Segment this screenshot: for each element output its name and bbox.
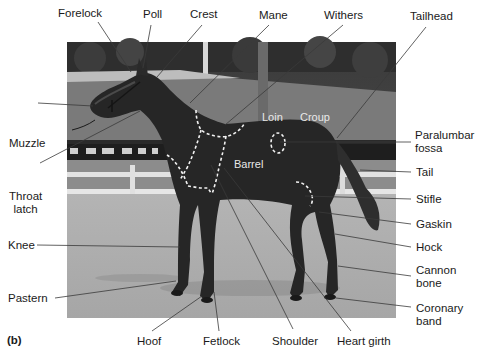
label-loin: Loin <box>262 111 283 123</box>
label-poll: Poll <box>143 8 162 21</box>
label-fetlock: Fetlock <box>203 335 240 348</box>
label-mane: Mane <box>259 9 288 22</box>
label-pastern: Pastern <box>8 292 48 305</box>
label-croup: Croup <box>300 111 330 123</box>
label-cannon-bone: Cannon bone <box>416 264 456 290</box>
horse-anatomy-figure: Forelock Poll Crest Mane Withers Tailhea… <box>0 0 484 361</box>
panel-label: (b) <box>7 334 22 346</box>
label-knee: Knee <box>8 239 35 252</box>
label-withers: Withers <box>324 9 363 22</box>
label-hoof: Hoof <box>137 335 161 348</box>
label-gaskin: Gaskin <box>416 218 452 231</box>
label-stifle: Stifle <box>416 193 442 206</box>
label-tail: Tail <box>416 166 433 179</box>
label-barrel: Barrel <box>234 158 263 170</box>
label-throat-latch: Throat latch <box>9 190 42 216</box>
photo-and-leader-lines <box>0 0 484 361</box>
label-tailhead: Tailhead <box>410 10 453 23</box>
label-heart-girth: Heart girth <box>337 335 391 348</box>
label-muzzle: Muzzle <box>9 137 45 150</box>
label-coronary-band: Coronary band <box>416 302 463 328</box>
label-shoulder: Shoulder <box>272 335 318 348</box>
label-paralumbar-fossa: Paralumbar fossa <box>415 129 474 155</box>
label-crest: Crest <box>190 8 217 21</box>
label-hock: Hock <box>416 241 442 254</box>
label-forelock: Forelock <box>58 7 102 20</box>
